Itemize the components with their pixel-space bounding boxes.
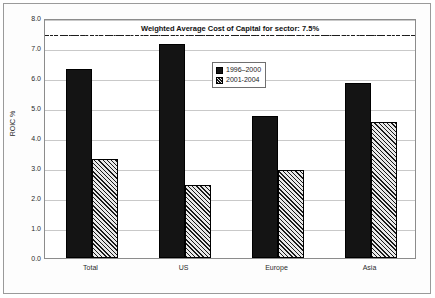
legend-label-series0: 1996–2000 xyxy=(226,66,261,74)
wacc-reference-line xyxy=(45,35,415,36)
bar-europe-series0 xyxy=(252,116,278,259)
x-axis-tick-label: Total xyxy=(44,261,137,277)
bar-total-series0 xyxy=(66,69,92,258)
legend-swatch-icon-series1 xyxy=(216,77,223,84)
y-axis-tick-label: 6.0 xyxy=(3,75,41,83)
legend-item-series0: 1996–2000 xyxy=(216,65,261,75)
bar-us-series0 xyxy=(159,44,185,259)
plot-area: Weighted Average Cost of Capital for sec… xyxy=(44,19,416,259)
y-axis-tick-label: 8.0 xyxy=(3,15,41,23)
y-axis-tick-label: 0.0 xyxy=(3,255,41,263)
gridline xyxy=(45,50,415,51)
legend-item-series1: 2001-2004 xyxy=(216,75,261,85)
bar-europe-series1 xyxy=(278,170,304,259)
bar-asia-series0 xyxy=(345,83,371,259)
y-axis-tick-label: 2.0 xyxy=(3,195,41,203)
y-axis-tick-label: 3.0 xyxy=(3,165,41,173)
chart-figure: 0.01.02.03.04.05.06.07.08.0 ROIC % Weigh… xyxy=(0,0,435,298)
legend-label-series1: 2001-2004 xyxy=(226,76,259,84)
bar-asia-series1 xyxy=(371,122,397,259)
bar-us-series1 xyxy=(185,185,211,259)
y-axis-tick-label: 7.0 xyxy=(3,45,41,53)
gridline xyxy=(45,20,415,21)
legend-swatch-icon-series0 xyxy=(216,67,223,74)
x-axis-tick-label: Europe xyxy=(230,261,323,277)
chart-legend: 1996–2000 2001-2004 xyxy=(212,62,266,88)
x-axis-tick-label: Asia xyxy=(323,261,416,277)
y-axis-title: ROIC % xyxy=(9,94,16,154)
x-axis-tick-labels: TotalUSEuropeAsia xyxy=(44,261,416,277)
x-axis-tick-label: US xyxy=(137,261,230,277)
y-axis-tick-label: 1.0 xyxy=(3,225,41,233)
wacc-annotation-label: Weighted Average Cost of Capital for sec… xyxy=(45,24,415,33)
y-axis-tick-labels: 0.01.02.03.04.05.06.07.08.0 xyxy=(0,19,41,259)
bar-total-series1 xyxy=(92,159,118,258)
